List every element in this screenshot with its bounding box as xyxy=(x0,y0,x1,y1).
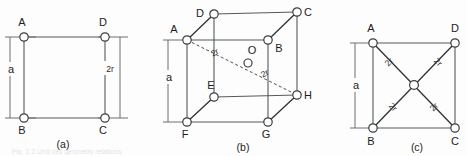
panel-b-atom-G xyxy=(264,118,272,126)
panel-c-atom-B xyxy=(369,124,377,132)
panel-a: A D B C a 2r (a) xyxy=(5,16,128,150)
panel-a-dim-2r-label: 2r xyxy=(106,64,114,74)
panel-b-dim-a-label: a xyxy=(166,71,173,83)
panel-c-dim-2r-top-right-label: 2r xyxy=(432,56,445,69)
panel-b-atom-E xyxy=(210,93,218,101)
panel-b-atom-O-center xyxy=(244,59,252,67)
panel-b-edge-DC xyxy=(214,12,297,14)
panel-b-atom-A xyxy=(183,36,191,44)
panel-b: a D C A B E H F G O 2r 2r (b) xyxy=(163,6,312,153)
panel-a-label-C: C xyxy=(99,124,107,136)
panel-b-edge-CB xyxy=(268,12,297,40)
panel-b-label-A: A xyxy=(170,23,178,35)
panel-b-label-E: E xyxy=(207,79,214,91)
panel-a-atom-B xyxy=(20,114,28,122)
panel-c-atom-D xyxy=(451,39,459,47)
panel-b-dim-2r-upper-label: 2r xyxy=(209,46,220,58)
panel-c-label-A: A xyxy=(367,22,375,34)
panel-b-edge-EH xyxy=(214,95,297,97)
figure-root: A D B C a 2r (a) xyxy=(0,0,467,156)
panel-c-atom-C xyxy=(451,124,459,132)
panel-a-label-D: D xyxy=(99,16,107,28)
panel-b-atom-D xyxy=(210,10,218,18)
panel-b-dim-2r-lower-label: 2r xyxy=(259,67,270,79)
panel-c-atom-A xyxy=(369,39,377,47)
panel-c-label-C: C xyxy=(451,135,459,147)
panel-b-edge-EF xyxy=(187,97,214,122)
panel-c-label-B: B xyxy=(367,135,374,147)
panel-b-atom-B xyxy=(264,36,272,44)
panel-c-label-D: D xyxy=(451,22,459,34)
panel-a-atom-C xyxy=(101,114,109,122)
panel-b-edge-HG xyxy=(268,95,297,122)
panel-b-label-B: B xyxy=(275,42,282,54)
panel-b-label-F: F xyxy=(182,128,189,140)
panel-b-label-H: H xyxy=(304,89,312,101)
panel-c-dim-a-label: a xyxy=(353,79,360,91)
panel-a-atom-A xyxy=(20,33,28,41)
panel-b-caption: (b) xyxy=(237,141,250,153)
panel-a-atom-D xyxy=(101,33,109,41)
panel-a-label-B: B xyxy=(18,124,25,136)
panel-c-dim-2r-top-left-label: 2r xyxy=(383,56,396,69)
panel-c-caption: (c) xyxy=(411,141,423,153)
panel-a-label-A: A xyxy=(18,16,26,28)
panel-b-label-O: O xyxy=(248,44,257,56)
panel-b-label-G: G xyxy=(262,128,271,140)
panel-c: a A D B C 2r 2r 2r 2r (c) xyxy=(350,22,459,153)
cut-off-caption-text: Fig. 1.2 Unit cell geometry relations xyxy=(12,148,212,155)
crystal-structure-figure: A D B C a 2r (a) xyxy=(0,0,467,156)
panel-a-dim-a-label: a xyxy=(8,63,15,75)
panel-b-label-D: D xyxy=(196,7,204,19)
panel-b-atom-C xyxy=(293,8,301,16)
panel-b-label-C: C xyxy=(304,6,312,18)
panel-b-atom-H xyxy=(293,91,301,99)
panel-c-atom-center xyxy=(410,81,419,90)
panel-b-atom-F xyxy=(183,118,191,126)
